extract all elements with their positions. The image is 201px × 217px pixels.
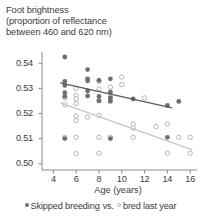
data-point [108, 99, 113, 104]
legend-label-bred: bred last year [123, 201, 177, 211]
data-point [97, 135, 101, 139]
y-axis-tick-label: 0.53 [3, 84, 33, 93]
x-axis-tick-label: 16 [178, 175, 201, 184]
data-point [108, 76, 113, 81]
data-point [85, 94, 90, 99]
data-point [154, 124, 158, 128]
data-point [97, 78, 102, 83]
data-point [165, 151, 169, 155]
data-point [74, 151, 78, 155]
data-point [188, 135, 192, 139]
series-bred-last-year-points [63, 75, 193, 156]
x-axis-tick-label: 4 [41, 175, 65, 184]
data-point [74, 135, 78, 139]
y-axis-tick-label: 0.51 [3, 134, 33, 143]
axes [42, 52, 197, 170]
y-axis-tick-label: 0.52 [3, 109, 33, 118]
data-point [165, 122, 169, 126]
data-point [85, 67, 90, 72]
data-point [74, 101, 78, 105]
data-point [62, 136, 67, 141]
x-axis-tick-label: 10 [110, 175, 134, 184]
data-point [74, 114, 78, 118]
y-axis-tick-label: 0.50 [3, 159, 33, 168]
data-point [108, 136, 113, 141]
data-point [97, 94, 102, 99]
data-point [131, 135, 135, 139]
chart-figure: Foot brightness (proportion of reflectan… [0, 0, 201, 217]
x-axis-tick-label: 12 [133, 175, 157, 184]
chart-legend: Skipped breedingvs.bred last year [0, 200, 201, 211]
data-point [97, 99, 102, 104]
data-point [188, 151, 192, 155]
series-skipped-breeding-points [62, 55, 181, 141]
legend-marker-bred-icon [117, 203, 121, 207]
x-axis-tick-label: 6 [64, 175, 88, 184]
data-point [177, 135, 181, 139]
legend-separator: vs. [103, 201, 114, 211]
trendlines [60, 83, 192, 150]
data-point [97, 151, 101, 155]
data-point [85, 115, 89, 119]
legend-marker-skipped-icon [25, 203, 29, 207]
data-point [120, 75, 124, 79]
data-point [85, 78, 90, 83]
data-point [74, 97, 78, 101]
trendline [60, 103, 192, 150]
data-point [62, 94, 67, 99]
data-point [108, 85, 112, 89]
x-axis-tick-label: 8 [87, 175, 111, 184]
data-point [176, 99, 181, 104]
legend-label-skipped: Skipped breeding [31, 201, 100, 211]
data-point [97, 87, 101, 91]
y-axis-ticks [39, 63, 43, 163]
data-point [62, 55, 67, 60]
y-axis-tick-label: 0.54 [3, 59, 33, 68]
x-axis-title: Age (years) [42, 185, 194, 195]
data-point [165, 135, 170, 140]
data-point [120, 82, 124, 86]
x-axis-tick-label: 14 [155, 175, 179, 184]
x-axis-ticks [53, 170, 190, 174]
data-point [142, 96, 146, 100]
data-point [74, 118, 78, 122]
